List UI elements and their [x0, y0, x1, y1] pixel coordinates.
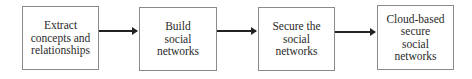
node-cloud-based-secure-social-networks: Cloud-based secure social networks [377, 5, 454, 70]
arrow-2-to-3 [217, 30, 256, 32]
node-label: Build social networks [157, 20, 199, 58]
node-extract-concepts: Extract concepts and relationships [22, 6, 99, 70]
node-label: Secure the social networks [272, 20, 320, 58]
node-build-social-networks: Build social networks [139, 7, 217, 71]
node-label: Extract concepts and relationships [31, 19, 91, 57]
arrow-3-to-4 [335, 31, 375, 33]
arrow-1-to-2 [99, 30, 137, 32]
node-secure-social-networks: Secure the social networks [258, 7, 335, 71]
node-label: Cloud-based secure social networks [386, 13, 444, 63]
